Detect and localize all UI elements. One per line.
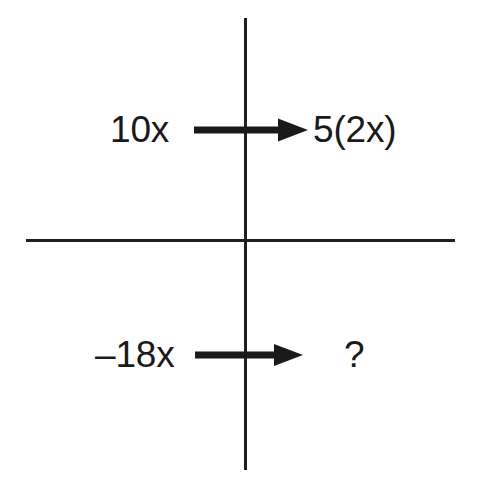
source-expression-top: 10x (110, 100, 169, 160)
expression-row-top: 10x 5(2x) (0, 100, 479, 160)
vertical-axis-line (244, 18, 247, 470)
right-arrow-icon (194, 100, 308, 160)
expression-row-bottom: –18x ? (0, 325, 479, 385)
target-expression-top: 5(2x) (313, 100, 396, 160)
horizontal-axis-line (26, 239, 455, 242)
diagram-canvas: 10x 5(2x) –18x ? (0, 0, 479, 503)
right-arrow-icon (195, 325, 303, 385)
source-expression-bottom: –18x (95, 325, 174, 385)
unknown-target-expression-bottom: ? (344, 325, 364, 385)
